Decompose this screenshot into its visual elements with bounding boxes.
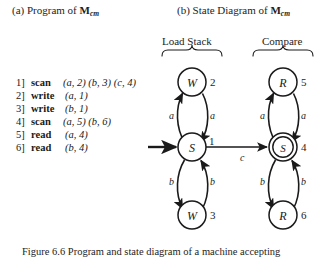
- state-node-w3[interactable]: W: [178, 201, 206, 229]
- program-line-number: 6]: [16, 141, 31, 154]
- program-line: 1]scan(a, 2) (b, 3) (c, 4): [16, 76, 136, 89]
- panel-a-machine-subscript: cm: [90, 9, 99, 18]
- edge-r5-to-s4: [292, 94, 299, 142]
- program-line-args: (b, 1): [65, 103, 88, 114]
- state-node-r5[interactable]: R: [269, 68, 297, 96]
- program-line: 4]scan(a, 5) (b, 6): [16, 115, 136, 128]
- panel-b-machine-subscript: cm: [281, 9, 290, 18]
- program-listing: 1]scan(a, 2) (b, 3) (c, 4) 2]write(a, 1)…: [16, 76, 136, 155]
- program-line-number: 3]: [16, 102, 31, 115]
- program-line-number: 4]: [16, 115, 31, 128]
- state-number-s1: 1: [209, 136, 215, 147]
- brace-compare: [253, 45, 313, 56]
- panel-a-machine-name: M: [80, 4, 90, 16]
- state-node-r5-symbol: R: [278, 76, 287, 90]
- state-node-w3-symbol: W: [187, 209, 198, 223]
- edge-label-c-bridge: c: [240, 153, 244, 163]
- state-number-r5: 5: [301, 77, 307, 88]
- edge-label-a-right-up: a: [260, 111, 265, 121]
- program-line-opcode: read: [31, 141, 65, 154]
- panel-b-caption: (b) State Diagram of Mcm: [177, 4, 290, 20]
- program-line-opcode: scan: [31, 76, 63, 89]
- edge-r6-to-s4: [292, 161, 299, 209]
- figure-caption: Figure 6.6 Program and state diagram of …: [22, 246, 280, 258]
- program-line: 5]read(a, 4): [16, 128, 136, 141]
- program-line-args: (a, 1): [65, 90, 88, 101]
- program-line-args: (a, 4): [65, 129, 88, 140]
- edge-s1-to-w3: [177, 160, 184, 209]
- edge-label-b-left-down: b: [169, 177, 174, 187]
- edge-s4-to-r6: [268, 160, 275, 209]
- program-line-number: 5]: [16, 128, 31, 141]
- program-line-number: 1]: [16, 76, 31, 89]
- program-line-args: (a, 2) (b, 3) (c, 4): [63, 77, 136, 88]
- edge-label-a-right-down: a: [301, 111, 306, 121]
- state-node-w2[interactable]: W: [178, 68, 206, 96]
- program-line-opcode: write: [31, 89, 65, 102]
- edge-s4-to-r5: [268, 94, 275, 143]
- state-node-r6[interactable]: R: [269, 201, 297, 229]
- program-line-opcode: write: [31, 102, 65, 115]
- state-node-s1-symbol: S: [189, 141, 195, 155]
- program-line: 3]write(b, 1): [16, 102, 136, 115]
- state-number-w2: 2: [210, 77, 216, 88]
- program-line-opcode: read: [31, 128, 65, 141]
- state-node-s4[interactable]: S: [269, 133, 297, 161]
- edge-label-a-left-up: a: [169, 111, 174, 121]
- state-number-r6: 6: [301, 210, 307, 221]
- panel-b-caption-prefix: (b) State Diagram of: [177, 4, 270, 16]
- program-line-opcode: scan: [31, 115, 63, 128]
- state-node-s1[interactable]: S: [178, 133, 206, 161]
- state-diagram: W S W R S: [132, 36, 328, 236]
- panel-b-machine-name: M: [270, 4, 280, 16]
- state-node-r6-symbol: R: [278, 209, 287, 223]
- program-line-args: (a, 5) (b, 6): [63, 116, 111, 127]
- program-line-number: 2]: [16, 89, 31, 102]
- state-node-w2-symbol: W: [187, 76, 198, 90]
- brace-load-stack: [162, 45, 222, 56]
- edge-label-b-right-up: b: [301, 177, 306, 187]
- edge-label-a-left-down: a: [210, 111, 215, 121]
- edge-label-b-right-down: b: [260, 177, 265, 187]
- edge-label-b-left-up: b: [210, 177, 215, 187]
- program-line: 6]read(b, 4): [16, 141, 136, 154]
- edge-w3-to-s1: [201, 161, 208, 209]
- panel-a-caption-prefix: (a) Program of: [12, 4, 80, 16]
- state-number-w3: 3: [210, 210, 216, 221]
- state-node-s4-symbol: S: [280, 142, 286, 154]
- edge-w2-to-s1: [201, 94, 208, 142]
- edge-s1-to-w2: [177, 94, 184, 143]
- state-number-s4: 4: [301, 142, 307, 153]
- program-line-args: (b, 4): [65, 142, 88, 153]
- program-line: 2]write(a, 1): [16, 89, 136, 102]
- panel-a-caption: (a) Program of Mcm: [12, 4, 99, 20]
